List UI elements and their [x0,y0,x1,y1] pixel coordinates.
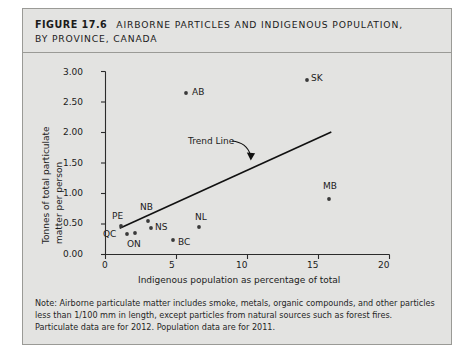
point-label-NB: NB [140,202,153,212]
y-tick-label-1-50: 1.50 [63,158,83,168]
point-label-AB: AB [192,87,204,97]
figure-title-band: FIGURE 17.6AIRBORNE PARTICLES AND INDIGE… [22,8,452,52]
y-axis-title-line-1: Tonnes of total particulate [40,84,53,244]
figure-page: FIGURE 17.6AIRBORNE PARTICLES AND INDIGE… [0,0,474,355]
y-tick-label-1-00: 1.00 [63,188,83,198]
figure-title-line-2: BY PROVINCE, CANADA [35,32,439,46]
x-tick-label-15: 15 [307,260,318,270]
point-label-ON: ON [127,239,141,249]
note-line-3: Particulate data are for 2012. Populatio… [35,321,441,333]
chart-panel [22,52,452,292]
trend-line-annotation: Trend Line [188,136,234,146]
point-label-SK: SK [311,73,323,83]
x-tick-label-10: 10 [236,260,247,270]
point-label-QC: QC [103,229,116,239]
point-label-MB: MB [323,181,337,191]
y-axis-title: Tonnes of total particulate matter per p… [40,84,60,244]
y-tick-label-0-00: 0.00 [63,249,83,259]
note-line-1: Note: Airborne particulate matter includ… [35,297,441,309]
y-tick-label-3-00: 3.00 [63,67,83,77]
point-label-NL: NL [195,212,207,222]
figure-title-line-1: FIGURE 17.6AIRBORNE PARTICLES AND INDIGE… [35,18,439,32]
x-tick-label-5: 5 [169,260,175,270]
figure-note: Note: Airborne particulate matter includ… [22,291,452,345]
x-axis-title: Indigenous population as percentage of t… [138,275,340,285]
figure-title-text-1: AIRBORNE PARTICLES AND INDIGENOUS POPULA… [116,19,403,30]
figure-number: FIGURE 17.6 [35,19,107,30]
point-label-BC: BC [178,237,190,247]
x-tick-label-0: 0 [102,260,108,270]
y-tick-label-2-50: 2.50 [63,97,83,107]
note-line-2: less than 1/100 mm in length, except par… [35,309,441,321]
point-label-PE: PE [112,211,123,221]
point-label-NS: NS [155,222,167,232]
y-tick-label-2-00: 2.00 [63,127,83,137]
x-tick-label-20: 20 [378,260,389,270]
y-tick-label-0-50: 0.50 [63,218,83,228]
